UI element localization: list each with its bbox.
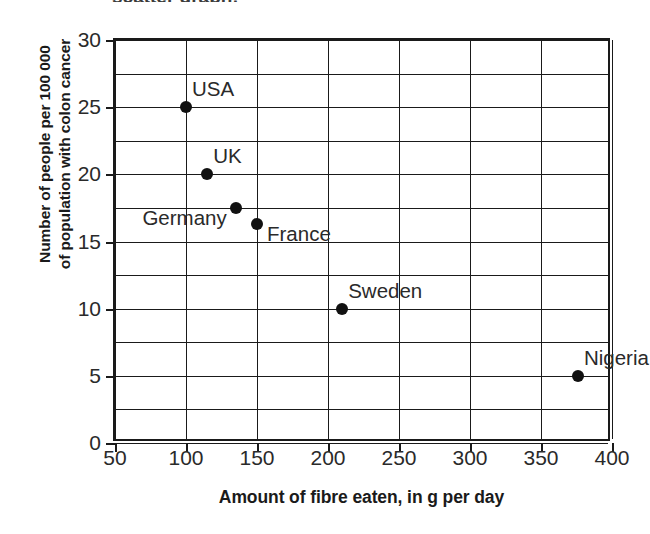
data-point-label: Nigeria	[584, 346, 649, 370]
gridline-vertical	[612, 40, 613, 439]
y-axis-tick-label: 5	[89, 364, 101, 388]
data-point-label: USA	[192, 77, 234, 101]
gridline-horizontal	[115, 342, 608, 343]
data-point-label: France	[267, 222, 331, 246]
y-axis-tick	[106, 443, 115, 445]
y-axis-title-line-2: of population with colon cancer	[55, 39, 75, 269]
gridline-horizontal	[115, 141, 608, 142]
gridline-vertical	[257, 40, 258, 439]
y-axis-tick	[106, 107, 115, 109]
gridline-vertical	[186, 40, 187, 439]
plot-area: 051015202530 50100150200250300350400 USA…	[113, 38, 610, 441]
gridline-horizontal	[115, 40, 608, 41]
y-axis-tick-label: 30	[78, 28, 101, 52]
x-axis-tick-label: 150	[239, 446, 274, 470]
data-point-marker[interactable]	[180, 101, 192, 113]
data-point-label: Sweden	[348, 279, 422, 303]
data-point-label: Germany	[142, 206, 226, 230]
gridline-horizontal	[115, 74, 608, 75]
x-axis-tick-label: 100	[168, 446, 203, 470]
y-axis-tick-label: 0	[89, 431, 101, 455]
gridline-horizontal	[115, 409, 608, 410]
x-axis-title: Amount of fibre eaten, in g per day	[113, 487, 610, 508]
y-axis-tick-label: 10	[78, 297, 101, 321]
y-axis-tick	[106, 376, 115, 378]
x-axis-tick-label: 50	[103, 446, 126, 470]
y-axis-tick	[106, 309, 115, 311]
data-point-marker[interactable]	[251, 218, 263, 230]
y-axis-title: Number of people per 100 000 of populati…	[33, 0, 77, 364]
gridline-vertical	[399, 40, 400, 439]
chart-figure: scatter graph: Number of people per 100 …	[0, 0, 650, 534]
chart-title-remnant: scatter graph:	[112, 0, 532, 2]
gridline-vertical	[115, 40, 116, 439]
gridline-vertical	[470, 40, 471, 439]
x-axis-tick-label: 250	[381, 446, 416, 470]
gridline-horizontal	[115, 174, 608, 175]
data-point-marker[interactable]	[336, 303, 348, 315]
gridline-horizontal	[115, 376, 608, 377]
x-axis-tick-label: 400	[594, 446, 629, 470]
data-point-marker[interactable]	[572, 370, 584, 382]
y-axis-tick	[106, 40, 115, 42]
y-axis-tick	[106, 174, 115, 176]
y-axis-tick-label: 15	[78, 230, 101, 254]
x-axis-tick-label: 300	[452, 446, 487, 470]
gridline-horizontal	[115, 443, 608, 444]
data-point-label: UK	[213, 144, 241, 168]
gridline-horizontal	[115, 309, 608, 310]
data-point-marker[interactable]	[201, 168, 213, 180]
gridline-vertical	[541, 40, 542, 439]
x-axis-tick-label: 350	[523, 446, 558, 470]
y-axis-tick	[106, 242, 115, 244]
data-point-marker[interactable]	[230, 202, 242, 214]
gridline-horizontal	[115, 242, 608, 243]
y-axis-tick-label: 20	[78, 162, 101, 186]
y-axis-tick-label: 25	[78, 95, 101, 119]
x-axis-tick-label: 200	[310, 446, 345, 470]
y-axis-title-line-1: Number of people per 100 000	[35, 45, 55, 263]
gridline-horizontal	[115, 275, 608, 276]
